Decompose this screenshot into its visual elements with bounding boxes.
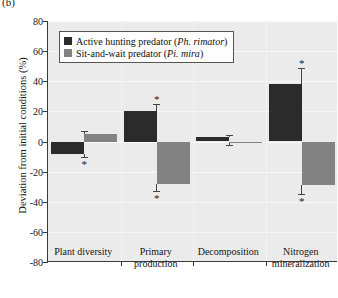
legend-swatch-icon-dark: [64, 37, 72, 45]
legend: Active hunting predator (Ph. rimator) Si…: [59, 31, 234, 63]
y-tick: [43, 232, 48, 233]
error-bar-cap: [81, 131, 88, 132]
y-tick-label: 80: [3, 16, 43, 27]
category-separator: [266, 21, 267, 261]
error-bar-cap: [226, 135, 233, 136]
error-bar-cap: [226, 145, 233, 146]
legend-item-active-hunting: Active hunting predator (Ph. rimator): [64, 35, 227, 47]
significance-marker: *: [79, 160, 89, 168]
error-bar: [156, 184, 157, 192]
bar: [196, 137, 229, 142]
x-category-label-line: production: [114, 258, 199, 270]
y-tick: [43, 111, 48, 112]
significance-marker: *: [297, 197, 307, 205]
bar: [84, 134, 117, 142]
y-tick: [43, 21, 48, 22]
figure-panel-b: (b) Deviation from initial conditions (%…: [0, 0, 338, 298]
y-tick-label: 60: [3, 46, 43, 57]
legend-label-active-hunting: Active hunting predator (Ph. rimator): [76, 36, 227, 47]
y-tick-label: -80: [3, 257, 43, 268]
x-category-label-line: Nitrogen: [259, 246, 338, 258]
bar: [269, 84, 302, 141]
x-category-label-line: mineralization: [259, 258, 338, 270]
error-bar: [301, 68, 302, 85]
bar: [124, 111, 157, 141]
panel-letter: (b): [2, 0, 15, 8]
y-tick: [43, 51, 48, 52]
bar: [157, 142, 190, 184]
y-tick-label: -60: [3, 226, 43, 237]
legend-item-sit-and-wait: Sit-and-wait predator (Pi. mira): [64, 47, 227, 59]
y-tick: [43, 172, 48, 173]
significance-marker: *: [152, 194, 162, 202]
bar: [51, 142, 84, 154]
significance-marker: *: [297, 59, 307, 67]
error-bar: [156, 104, 157, 112]
y-tick-label: -20: [3, 166, 43, 177]
y-tick: [43, 81, 48, 82]
y-tick-label: 0: [3, 136, 43, 147]
y-tick: [43, 202, 48, 203]
legend-label-sit-and-wait: Sit-and-wait predator (Pi. mira): [76, 48, 203, 59]
y-tick-label: 20: [3, 106, 43, 117]
significance-marker: *: [152, 95, 162, 103]
y-tick: [43, 142, 48, 143]
bar: [229, 142, 262, 144]
y-tick: [43, 262, 48, 263]
bar: [302, 142, 335, 186]
y-tick-label: -40: [3, 196, 43, 207]
legend-swatch-icon-light: [64, 49, 72, 57]
y-tick-label: 40: [3, 76, 43, 87]
x-category-label: Nitrogenmineralization: [259, 246, 338, 269]
error-bar: [301, 185, 302, 194]
